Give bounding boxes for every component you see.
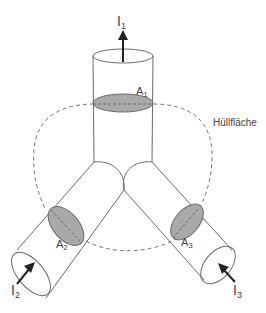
arrow-i1-icon [118, 30, 128, 62]
label-i3: I3 [233, 282, 242, 300]
node-diagram: I1 A1 A2 I2 A3 I3 Hüllfläche [0, 0, 266, 313]
label-enclosing-surface: Hüllfläche [213, 117, 257, 128]
arrow-i2-icon [17, 262, 35, 284]
conductor-1 [93, 49, 153, 162]
label-a3: A3 [181, 236, 193, 250]
label-i1: I1 [117, 13, 126, 31]
conductor-2 [4, 162, 124, 302]
label-a1: A1 [136, 85, 148, 99]
label-i2: I2 [11, 282, 20, 300]
